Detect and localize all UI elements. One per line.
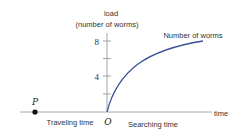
y-tick-label-8: 8 bbox=[95, 37, 100, 47]
chart: 8 4 P O load (number of worms) time Numb… bbox=[0, 0, 242, 135]
y-axis-title: load bbox=[104, 9, 118, 18]
point-p-dot bbox=[32, 109, 37, 114]
x-axis-title: time bbox=[214, 109, 228, 118]
origin-label: O bbox=[104, 117, 112, 127]
y-tick-label-4: 4 bbox=[95, 72, 100, 82]
point-p-label: P bbox=[31, 97, 39, 107]
y-axis-subtitle: (number of worms) bbox=[76, 20, 139, 29]
traveling-time-label: Traveling time bbox=[47, 118, 94, 127]
number-of-worms-curve bbox=[107, 41, 203, 112]
searching-time-label: Searching time bbox=[128, 120, 178, 129]
curve-label: Number of worms bbox=[163, 31, 222, 40]
